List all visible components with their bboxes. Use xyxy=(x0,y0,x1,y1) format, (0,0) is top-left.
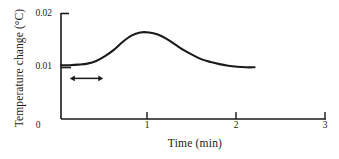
temperature-change-curve xyxy=(61,32,255,67)
x-tick-label-3: 3 xyxy=(317,120,333,130)
x-axis-title: Time (min) xyxy=(150,137,240,149)
time-interval-arrow-head-left xyxy=(70,76,75,82)
y-tick-label-0.02: 0.02 xyxy=(18,8,52,18)
x-tick-label-2: 2 xyxy=(228,120,244,130)
chart-plot-area xyxy=(0,0,339,159)
x-tick-label-0: 0 xyxy=(30,120,46,130)
x-tick-label-1: 1 xyxy=(139,120,155,130)
y-tick-label-0.01: 0.01 xyxy=(18,61,52,71)
chart-figure: Temperature change (°C) Time (min) 0.02 … xyxy=(0,0,339,159)
time-interval-arrow xyxy=(70,76,103,82)
time-interval-arrow-head-right xyxy=(98,76,103,82)
